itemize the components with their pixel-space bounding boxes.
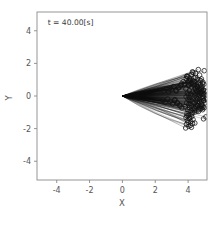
y-tick-label: -2: [23, 125, 31, 134]
x-tick-label: 0: [120, 186, 125, 195]
scatter-plot: -4-2024 -4-2024 X Y t = 40.00[s]: [0, 0, 221, 225]
x-tick-label: -2: [86, 186, 94, 195]
y-tick-label: 4: [26, 27, 31, 36]
y-tick-label: 0: [26, 92, 31, 101]
x-axis-ticklabels: -4-2024: [53, 186, 191, 195]
x-tick-label: -4: [53, 186, 61, 195]
figure-container: -4-2024 -4-2024 X Y t = 40.00[s]: [0, 0, 221, 225]
y-tick-label: 2: [26, 59, 31, 68]
x-axis-label: X: [119, 198, 125, 208]
time-annotation: t = 40.00[s]: [48, 18, 94, 27]
y-axis-ticklabels: -4-2024: [23, 27, 31, 166]
y-axis-label: Y: [4, 95, 14, 102]
y-tick-label: -4: [23, 157, 31, 166]
x-tick-label: 4: [186, 186, 191, 195]
x-tick-label: 2: [153, 186, 158, 195]
